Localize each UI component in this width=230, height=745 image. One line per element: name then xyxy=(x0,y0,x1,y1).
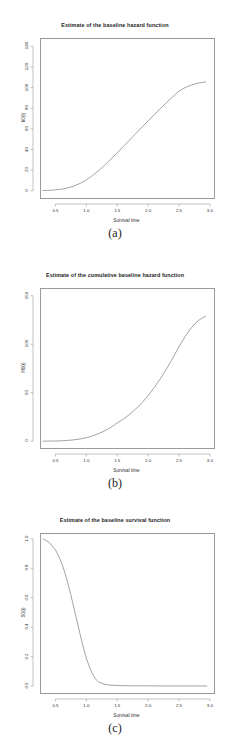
x-tick-label: 3.0 xyxy=(200,703,220,708)
panel-c-y-axis-label: S0(t) xyxy=(21,592,26,632)
x-tick-label: 1.0 xyxy=(76,703,96,708)
x-tick-label: 2.5 xyxy=(169,703,189,708)
y-tick-label: 100 xyxy=(24,80,29,94)
y-tick-label: 0.8 xyxy=(24,561,29,575)
x-tick-label: 0.5 xyxy=(45,458,65,463)
y-tick-label: 150 xyxy=(24,288,29,302)
y-tick-label: 0.2 xyxy=(24,649,29,663)
panel-a-caption: (a) xyxy=(0,226,230,241)
y-tick-label: 1.0 xyxy=(24,531,29,545)
figure-panel-c: Estimate of the baseline survival functi… xyxy=(0,495,230,743)
y-tick-label: 20 xyxy=(24,163,29,177)
x-tick-label: 1.5 xyxy=(107,208,127,213)
x-tick-label: 2.5 xyxy=(169,458,189,463)
x-tick-label: 2.0 xyxy=(138,703,158,708)
x-tick-label: 1.0 xyxy=(76,458,96,463)
figure-panel-a: Estimate of the baseline hazard function… xyxy=(0,0,230,248)
x-tick-label: 1.0 xyxy=(76,208,96,213)
y-tick-label: 0 xyxy=(24,183,29,197)
y-tick-label: 120 xyxy=(24,59,29,73)
y-tick-label: 0.0 xyxy=(24,679,29,693)
panel-c-caption: (c) xyxy=(0,721,230,736)
y-tick-label: 0 xyxy=(24,434,29,448)
panel-a-x-axis-label: Survival time xyxy=(40,218,213,223)
x-tick-label: 2.5 xyxy=(169,208,189,213)
x-tick-label: 1.5 xyxy=(107,458,127,463)
x-tick-label: 3.0 xyxy=(200,458,220,463)
panel-b-caption: (b) xyxy=(0,476,230,491)
y-tick-label: 40 xyxy=(24,142,29,156)
figure-panel-b: Estimate of the cumulative baseline haza… xyxy=(0,250,230,498)
x-tick-label: 1.5 xyxy=(107,703,127,708)
y-tick-label: 140 xyxy=(24,39,29,53)
x-tick-label: 2.0 xyxy=(138,458,158,463)
x-tick-label: 0.5 xyxy=(45,208,65,213)
panel-c-x-axis-label: Survival time xyxy=(40,713,213,718)
panel-b-y-axis-label: H0(t) xyxy=(21,347,26,387)
panel-a-y-axis-label: h0(t) xyxy=(21,97,26,137)
x-tick-label: 0.5 xyxy=(45,703,65,708)
x-tick-label: 2.0 xyxy=(138,208,158,213)
panel-b-x-axis-label: Survival time xyxy=(40,468,213,473)
x-tick-label: 3.0 xyxy=(200,208,220,213)
